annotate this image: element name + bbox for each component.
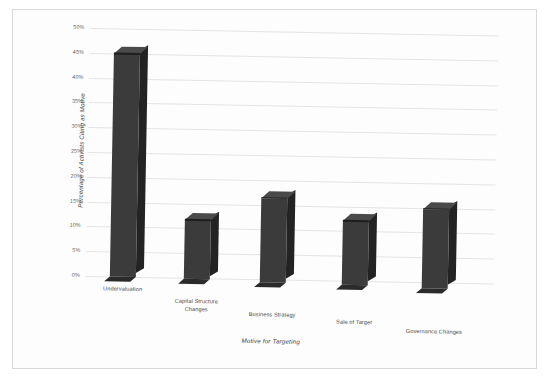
category-label-line: Undervaluation <box>77 285 169 294</box>
bar-side-face <box>368 213 377 282</box>
category-label-line: Business Strategy <box>226 311 318 320</box>
y-axis-tick-labels: 0%5%10%15%20%25%30%35%40%45%50% <box>3 0 548 5</box>
gridline-30 <box>89 127 497 135</box>
bar-column <box>260 198 288 283</box>
x-axis-category-labels: UndervaluationCapital StructureChangesBu… <box>3 0 548 5</box>
gridline-25 <box>88 152 496 160</box>
bar-front-face <box>110 53 140 277</box>
gridline-20 <box>88 177 496 185</box>
bar-column <box>342 221 369 286</box>
bar-base-face <box>416 288 448 293</box>
category-label-line: Sale of Target <box>308 318 400 327</box>
bar-column <box>184 220 211 280</box>
bar-front-face <box>342 221 369 286</box>
bar-column <box>422 209 449 289</box>
bar-base-face <box>254 282 286 287</box>
y-tick-label: 50% <box>54 23 84 30</box>
chart-plot-area: 0%5%10%15%20%25%30%35%40%45%50% Percenta… <box>0 0 548 379</box>
gridlines <box>3 0 548 5</box>
y-tick-label: 5% <box>50 247 80 254</box>
bar-front-face <box>422 209 449 289</box>
bar-base-face <box>336 285 368 290</box>
bar-side-face <box>448 201 458 285</box>
gridline-35 <box>89 102 497 110</box>
y-tick-label: 0% <box>50 271 80 278</box>
gridline-50 <box>90 28 498 36</box>
category-label-line: Governance Changes <box>388 328 480 337</box>
category-label: Sale of Target <box>308 318 400 327</box>
bar-base-face <box>104 276 136 281</box>
category-label: Business Strategy <box>226 311 318 320</box>
bar-front-face <box>184 220 211 280</box>
bar-column <box>110 53 140 277</box>
y-axis-title: Percentage of Activists Citing as Motive <box>76 60 86 240</box>
chart-rotation-wrapper: 0%5%10%15%20%25%30%35%40%45%50% Percenta… <box>0 0 548 379</box>
category-label: Undervaluation <box>77 285 169 294</box>
y-tick-label: 45% <box>54 48 84 55</box>
bar-series <box>3 0 548 5</box>
gridline-40 <box>89 78 497 86</box>
category-label: Governance Changes <box>388 328 480 337</box>
bar-side-face <box>210 212 219 276</box>
bar-side-face <box>286 190 296 279</box>
gridline-45 <box>90 53 498 61</box>
bar-front-face <box>260 198 288 283</box>
bar-base-face <box>178 279 210 284</box>
